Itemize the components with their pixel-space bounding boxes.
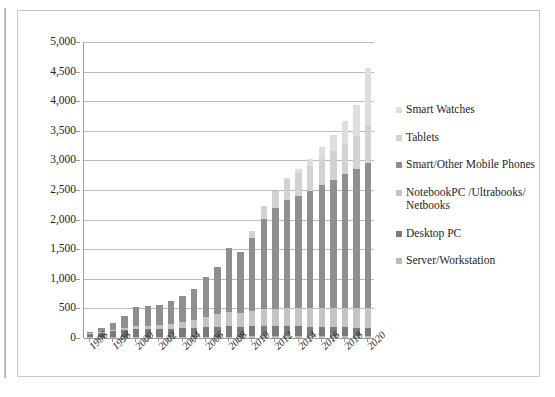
y-axis-tick-label: 3,000 — [20, 154, 76, 166]
bar-segment — [272, 309, 278, 326]
y-axis-tick-mark — [76, 131, 80, 132]
legend-item[interactable]: Smart/Other Mobile Phones — [396, 158, 555, 172]
bar-segment — [319, 185, 325, 308]
bar-segment — [203, 277, 209, 317]
bar-column — [249, 231, 255, 338]
bar-segment — [365, 125, 371, 163]
bar-segment — [191, 289, 197, 320]
bar-column — [156, 305, 162, 338]
bar-column — [237, 252, 243, 338]
bar-segment — [365, 308, 371, 328]
bar-segment — [110, 323, 116, 330]
bar-segment — [307, 159, 313, 166]
bar-segment — [295, 326, 301, 336]
bar-segment — [307, 166, 313, 191]
bar-column — [330, 135, 336, 338]
bar-segment — [330, 151, 336, 179]
bar-segment — [249, 326, 255, 336]
bar-segment — [237, 252, 243, 313]
y-axis-tick-label: 1,500 — [20, 243, 76, 255]
bar-segment — [295, 196, 301, 308]
bar-segment — [342, 144, 348, 174]
bar-segment — [307, 191, 313, 309]
legend-item[interactable]: NotebookPC /Ultrabooks/ Netbooks — [396, 186, 555, 213]
chart-frame: 5,0004,5004,0003,5003,0002,5002,0001,500… — [17, 10, 540, 377]
x-axis-tick-mark — [100, 338, 101, 342]
bar-segment — [191, 320, 197, 328]
bar-column — [295, 169, 301, 338]
bar-segment — [342, 121, 348, 145]
x-axis-tick-mark — [124, 338, 125, 342]
bar-segment — [226, 312, 232, 326]
bar-segment — [237, 313, 243, 327]
y-axis: 5,0004,5004,0003,5003,0002,5002,0001,500… — [18, 42, 76, 338]
bar-column — [110, 323, 116, 338]
y-axis-tick-mark — [76, 249, 80, 250]
legend-swatch-icon — [396, 135, 402, 141]
bar-segment — [330, 135, 336, 152]
y-axis-tick-label: 2,000 — [20, 214, 76, 226]
bar-segment — [203, 317, 209, 327]
bar-column — [261, 206, 267, 338]
legend-item[interactable]: Desktop PC — [396, 227, 555, 241]
bar-segment — [272, 191, 278, 209]
chart-page: 5,0004,5004,0003,5003,0002,5002,0001,500… — [0, 0, 555, 397]
bar-segment — [179, 328, 185, 336]
legend-swatch-icon — [396, 107, 402, 113]
y-axis-tick-mark — [76, 101, 80, 102]
bar-segment — [249, 238, 255, 311]
x-axis-tick-mark — [356, 338, 357, 342]
bar-segment — [284, 308, 290, 326]
y-axis-tick-mark — [76, 42, 80, 43]
legend-item-label: NotebookPC /Ultrabooks/ Netbooks — [406, 186, 555, 213]
bar-segment — [249, 231, 255, 238]
y-axis-tick-mark — [76, 160, 80, 161]
y-axis-tick-mark — [76, 72, 80, 73]
bar-column — [272, 191, 278, 338]
plot-area — [83, 42, 373, 338]
legend-item[interactable]: Smart Watches — [396, 103, 555, 117]
bar-column — [203, 277, 209, 338]
bar-column — [342, 121, 348, 338]
bar-column — [226, 248, 232, 338]
bar-series-group — [84, 42, 373, 338]
legend-swatch-icon — [396, 162, 402, 168]
legend-item[interactable]: Tablets — [396, 131, 555, 145]
legend-item-label: Smart Watches — [406, 103, 475, 117]
bar-column — [179, 296, 185, 338]
bar-segment — [365, 163, 371, 308]
bar-segment — [203, 327, 209, 336]
legend-item-label: Smart/Other Mobile Phones — [406, 158, 535, 172]
legend-item[interactable]: Server/Workstation — [396, 254, 555, 268]
y-axis-tick-label: 3,500 — [20, 125, 76, 137]
bar-column — [307, 159, 313, 338]
bar-segment — [295, 173, 301, 196]
bar-segment — [342, 308, 348, 327]
bar-column — [284, 178, 290, 338]
bar-segment — [249, 311, 255, 326]
bar-segment — [168, 301, 174, 324]
bar-column — [365, 68, 371, 338]
bar-segment — [272, 326, 278, 336]
y-axis-tick-label: 2,500 — [20, 184, 76, 196]
y-axis-tick-label: 1,000 — [20, 273, 76, 285]
bar-segment — [319, 147, 325, 158]
y-axis-tick-mark — [76, 279, 80, 280]
bar-segment — [261, 206, 267, 219]
bar-segment — [145, 306, 151, 326]
x-axis-tick-mark — [286, 338, 287, 342]
bar-segment — [284, 200, 290, 308]
bar-column — [353, 105, 359, 339]
bar-segment — [272, 208, 278, 308]
legend-item-label: Server/Workstation — [406, 254, 495, 268]
y-axis-tick-label: 500 — [20, 302, 76, 314]
bar-segment — [133, 329, 139, 337]
bar-segment — [330, 180, 336, 308]
legend-item-label: Tablets — [406, 131, 439, 145]
x-axis-tick-mark — [216, 338, 217, 342]
bar-segment — [284, 179, 290, 200]
legend-swatch-icon — [396, 190, 402, 196]
legend-swatch-icon — [396, 231, 402, 237]
y-axis-tick-label: 4,500 — [20, 66, 76, 78]
bar-segment — [353, 136, 359, 169]
